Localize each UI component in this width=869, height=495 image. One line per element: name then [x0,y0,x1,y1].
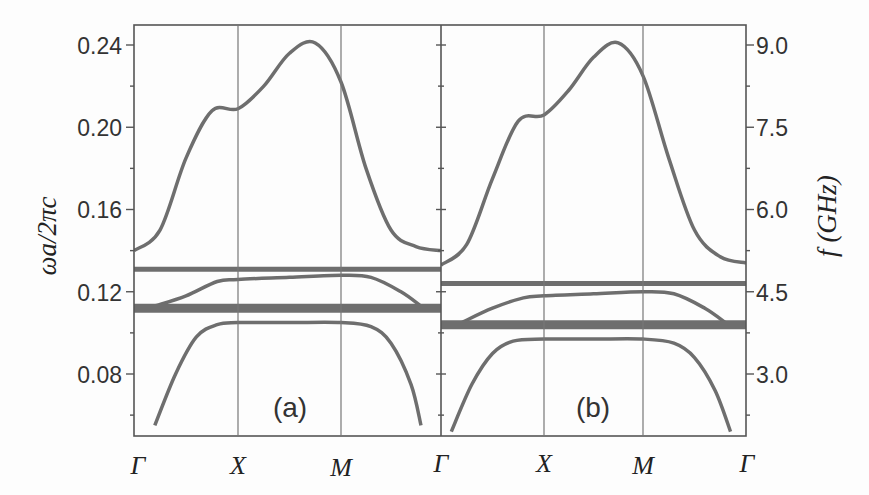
band-middle-band [155,275,421,306]
k-label-gamma-2: Γ [433,449,450,478]
band-curves [134,41,746,431]
left-tick-label: 0.24 [77,33,122,59]
band-upper-band [441,42,746,265]
axis-ticks [126,45,754,415]
band-structure-figure: ωa/2πc f (GHz) (a) (b) Γ X M Γ X M Γ 0.0… [0,0,869,495]
k-label-gamma-3: Γ [739,449,756,478]
right-tick-labels: 3.0 4.5 6.0 7.5 9.0 [756,33,788,388]
band-upper-band [134,41,441,250]
left-tick-label: 0.08 [77,362,122,388]
k-label-x-2: X [535,449,553,478]
left-tick-labels: 0.08 0.12 0.16 0.20 0.24 [77,33,122,388]
right-tick-label: 3.0 [756,362,788,388]
band-structure-chart: ωa/2πc f (GHz) (a) (b) Γ X M Γ X M Γ 0.0… [0,0,869,495]
right-tick-label: 6.0 [756,197,788,223]
left-tick-label: 0.16 [77,197,122,223]
left-tick-label: 0.12 [77,280,122,306]
band-middle-band [462,292,726,323]
panel-a [134,41,441,425]
k-label-m-1: M [329,453,353,482]
panel-b [441,42,746,431]
k-label-m-2: M [631,451,655,480]
y-axis-title-left: ωa/2πc [32,196,62,275]
y-axis-title-right: f (GHz) [812,175,842,257]
k-label-x-1: X [229,451,247,480]
panel-label-b: (b) [576,392,610,423]
panel-label-a: (a) [273,392,307,423]
right-tick-label: 9.0 [756,33,788,59]
k-label-gamma-1: Γ [130,451,147,480]
left-tick-label: 0.20 [77,115,122,141]
right-tick-label: 4.5 [756,280,788,306]
right-tick-label: 7.5 [756,115,788,141]
